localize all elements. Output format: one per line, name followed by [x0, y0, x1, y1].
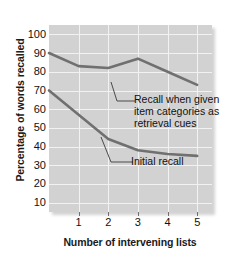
- y-axis-tick-60: 60: [0, 104, 46, 115]
- y-axis-tick-50: 50: [0, 122, 46, 133]
- y-axis-tick-90: 90: [0, 48, 46, 59]
- annotation-cued-line-1: Recall when given: [134, 93, 219, 105]
- leader-line-initial: [101, 137, 133, 162]
- x-axis-tick-4: 4: [158, 216, 178, 228]
- y-axis-tick-20: 20: [0, 178, 46, 189]
- x-axis-tick-2: 2: [98, 216, 118, 228]
- x-axis-tick-3: 3: [128, 216, 148, 228]
- annotation-cued-line-2: item categories as: [134, 105, 219, 117]
- x-axis-tick-1: 1: [69, 216, 89, 228]
- annotation-cued-recall: Recall when given item categories as ret…: [134, 93, 238, 130]
- leader-line-cued: [111, 82, 135, 101]
- y-axis-tick-10: 10: [0, 197, 46, 208]
- x-axis-title: Number of intervening lists: [30, 236, 230, 248]
- chart-figure: Percentage of words recalled 10203040506…: [0, 0, 246, 258]
- y-axis-tick-30: 30: [0, 160, 46, 171]
- series-line-cued: [49, 53, 197, 85]
- annotation-initial-recall: Initial recall: [131, 155, 221, 167]
- y-axis-tick-40: 40: [0, 141, 46, 152]
- annotation-cued-line-3: retrieval cues: [134, 117, 196, 129]
- y-axis-tick-70: 70: [0, 85, 46, 96]
- y-axis-tick-80: 80: [0, 66, 46, 77]
- y-axis-tick-100: 100: [0, 29, 46, 40]
- y-axis-tick-labels: 102030405060708090100: [0, 0, 46, 258]
- annotation-initial-label: Initial recall: [131, 155, 184, 167]
- x-axis-tick-5: 5: [187, 216, 207, 228]
